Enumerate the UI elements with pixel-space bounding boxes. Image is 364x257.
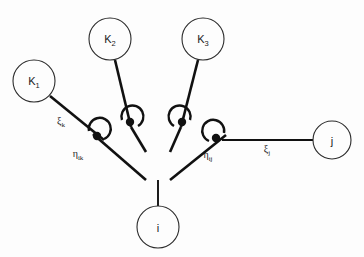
- node-k3[interactable]: K3: [182, 18, 224, 60]
- node-j-label: j: [330, 135, 333, 147]
- node-j[interactable]: j: [313, 121, 351, 159]
- node-i[interactable]: i: [137, 206, 179, 248]
- node-group: K1 K2 K3 j: [13, 18, 351, 248]
- edge-left-cross: [131, 127, 146, 152]
- branch-group: [50, 60, 313, 206]
- angle-ij-vertex-dot: [212, 134, 220, 142]
- angle-k2-vertex-dot: [126, 118, 134, 126]
- angle-ik-vertex-dot: [93, 132, 101, 140]
- edge-label-eta-ij: ηij: [203, 149, 212, 163]
- diagram-canvas: K1 K2 K3 j: [0, 0, 364, 257]
- edge-label-xi-k: ξk: [57, 115, 65, 129]
- edge-label-group: ξk ηik ηij ξj: [57, 115, 270, 163]
- angle-k3-vertex-dot: [178, 118, 186, 126]
- angle-k2-marker: [121, 106, 143, 127]
- edge-right-cross: [170, 127, 181, 152]
- node-i-label: i: [157, 222, 159, 234]
- angle-marker-group: [89, 106, 224, 143]
- tree-diagram-svg: K1 K2 K3 j: [0, 0, 364, 257]
- edge-k2-to-left-upper: [115, 60, 131, 127]
- angle-k3-marker: [169, 106, 191, 127]
- edge-label-xi-j: ξj: [264, 143, 270, 157]
- edge-label-eta-ik: ηik: [73, 148, 84, 162]
- node-k2[interactable]: K2: [89, 18, 131, 60]
- node-k1[interactable]: K1: [13, 60, 55, 102]
